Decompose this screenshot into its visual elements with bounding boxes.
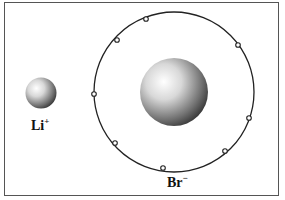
electron bbox=[92, 92, 97, 97]
electron bbox=[247, 116, 252, 121]
lithium-ion-sphere bbox=[26, 78, 57, 109]
electron bbox=[161, 166, 166, 171]
bromide-core-sphere bbox=[140, 58, 208, 126]
electron bbox=[144, 17, 149, 22]
electron bbox=[223, 149, 228, 154]
ion-diagram bbox=[0, 0, 285, 200]
lithium-ion-label: Li+ bbox=[31, 118, 49, 134]
electron bbox=[236, 43, 241, 48]
bromide-ion-label: Br− bbox=[167, 175, 188, 191]
electron bbox=[115, 38, 120, 43]
electron bbox=[113, 141, 118, 146]
